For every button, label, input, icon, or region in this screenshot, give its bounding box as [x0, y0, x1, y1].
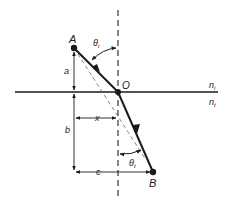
label-n-i: ni: [209, 80, 216, 91]
label-x: x: [94, 113, 100, 123]
label-c: c: [96, 167, 101, 177]
label-O: O: [122, 80, 130, 91]
label-b: b: [65, 125, 70, 135]
point-A: [71, 45, 77, 51]
label-theta-t: θt: [129, 158, 136, 169]
label-a: a: [64, 66, 69, 76]
label-A: A: [68, 33, 76, 45]
point-O: [115, 89, 121, 95]
transmitted-angle-arc: [120, 150, 141, 154]
straight-path-dashed: [74, 48, 146, 160]
label-n-t: nt: [209, 97, 216, 108]
label-B: B: [149, 177, 156, 189]
refracted-ray: [118, 92, 153, 172]
label-theta-i: θi: [93, 38, 100, 49]
incident-ray: [74, 48, 118, 92]
refraction-diagram: A O B θi θt ni nt a b x c: [0, 0, 228, 200]
incident-angle-arc: [92, 48, 116, 60]
point-B: [150, 169, 156, 175]
